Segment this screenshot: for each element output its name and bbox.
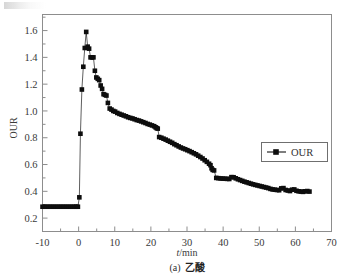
data-point-marker: [307, 189, 312, 194]
data-point-marker: [106, 101, 111, 106]
data-point-marker: [100, 87, 105, 92]
x-tick-label: 60: [290, 237, 301, 248]
data-point-marker: [77, 195, 82, 200]
data-point-marker: [93, 68, 98, 73]
data-point-marker: [76, 204, 81, 209]
data-point-marker: [212, 168, 217, 173]
x-tick-label: -10: [36, 237, 50, 248]
y-axis-tick-labels: 0.20.40.60.81.01.21.41.6: [24, 25, 38, 224]
y-tick-label: 1.4: [24, 52, 38, 63]
data-point-marker: [104, 93, 109, 98]
y-tick-label: 0.6: [24, 159, 37, 170]
y-axis-title: OUR: [8, 117, 19, 138]
legend: OUR: [262, 143, 328, 162]
figure-acetic-acid-our: -10010203040506070 0.20.40.60.81.01.21.4…: [0, 0, 346, 276]
x-axis-title-unit: /min: [179, 247, 197, 258]
data-point-marker: [81, 64, 86, 69]
data-point-marker: [91, 55, 96, 60]
x-tick-label: 20: [146, 237, 157, 248]
x-tick-label: 10: [110, 237, 121, 248]
data-point-marker: [97, 78, 102, 83]
y-axis-ticks: [43, 17, 48, 231]
data-point-marker: [84, 30, 89, 35]
x-axis-tick-labels: -10010203040506070: [36, 237, 337, 248]
x-tick-label: 50: [254, 237, 265, 248]
x-axis-title: t/min: [176, 247, 197, 258]
data-point-marker: [87, 46, 92, 51]
y-tick-label: 1.2: [24, 79, 37, 90]
y-tick-label: 1.0: [24, 106, 37, 117]
y-tick-label: 0.4: [24, 186, 38, 197]
figure-caption-label: 乙酸: [185, 261, 206, 273]
x-tick-label: 70: [326, 237, 337, 248]
x-tick-label: 40: [218, 237, 229, 248]
y-tick-label: 0.2: [24, 213, 37, 224]
y-tick-label: 1.6: [24, 25, 37, 36]
x-tick-label: 0: [76, 237, 81, 248]
data-point-marker: [80, 87, 85, 92]
figure-caption: (a)乙酸: [169, 261, 205, 274]
data-point-marker: [78, 131, 83, 136]
figure-caption-prefix: (a): [169, 262, 180, 274]
data-point-marker: [155, 126, 160, 131]
legend-sample-marker: [273, 149, 279, 155]
y-tick-label: 0.8: [24, 132, 37, 143]
x-axis-ticks: [43, 227, 332, 232]
x-tick-label: 30: [182, 237, 193, 248]
series-line-our: [43, 32, 310, 207]
legend-label-our: OUR: [291, 147, 313, 158]
our-vs-time-line-chart: -10010203040506070 0.20.40.60.81.01.21.4…: [0, 0, 346, 276]
